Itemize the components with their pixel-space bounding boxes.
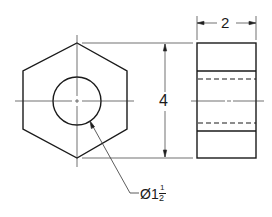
hole-fraction-numerator: 1 [160,184,164,192]
hole-diameter-label: Ø 1 1 2 [140,184,172,206]
front-center-lines [15,35,134,167]
side-view [197,43,256,158]
hole-fraction-denominator: 2 [159,194,164,203]
height-extension-lines [82,43,193,158]
hole-whole-number: 1 [151,187,159,201]
hexagon-outline [23,43,127,158]
technical-drawing [0,0,272,217]
height-dimension-label: 4 [159,93,168,109]
width-dimension-label: 2 [221,15,229,30]
diameter-symbol: Ø [140,187,151,201]
hole-leader [90,121,139,193]
